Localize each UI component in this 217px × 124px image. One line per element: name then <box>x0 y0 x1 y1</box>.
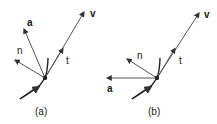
trajectory-arrow-icon <box>20 88 37 99</box>
label-n: n <box>17 45 23 56</box>
caption-a: (a) <box>35 106 47 117</box>
label-n: n <box>137 50 143 61</box>
particle-point <box>155 76 159 80</box>
normal-vector <box>127 59 157 78</box>
label-t: t <box>66 55 69 66</box>
label-a: a <box>27 17 33 28</box>
panel-a: v a n t (a) <box>15 8 96 117</box>
acceleration-vector <box>24 29 45 78</box>
panel-b: v a n t (b) <box>107 9 210 117</box>
caption-b: (b) <box>148 106 160 117</box>
trajectory-arrow-icon <box>132 88 149 99</box>
particle-point <box>43 76 47 80</box>
label-a: a <box>107 83 113 94</box>
label-v: v <box>90 8 96 19</box>
label-t: t <box>179 55 182 66</box>
motion-vectors-diagram: v a n t (a) v a n t (b) <box>0 0 217 124</box>
label-v: v <box>204 9 210 20</box>
normal-vector <box>15 60 45 78</box>
